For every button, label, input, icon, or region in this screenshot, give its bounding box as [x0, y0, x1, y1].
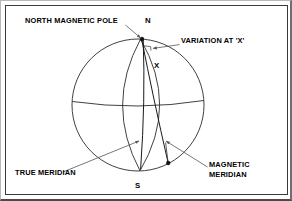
globe-outline [72, 39, 204, 171]
leader-north-magnetic-pole [126, 25, 141, 38]
label-north-pole-point: N [145, 16, 151, 25]
label-true-meridian: TRUE MERIDIAN [15, 168, 76, 177]
figure-frame: NORTH MAGNETIC POLE N VARIATION AT 'X' X… [0, 0, 292, 201]
label-magnetic-meridian-line1: MAGNETIC [209, 160, 250, 169]
true-meridian-curve [141, 39, 144, 170]
magnetic-meridian-curve [142, 39, 169, 163]
leader-magnetic-meridian [166, 141, 207, 167]
label-magnetic-meridian-line2: MERIDIAN [209, 170, 247, 179]
label-north-magnetic-pole: NORTH MAGNETIC POLE [25, 16, 118, 25]
label-station-x: X [154, 61, 160, 70]
north-magnetic-pole-dot [140, 37, 144, 41]
globe-meridian-right [140, 39, 160, 171]
variation-angle-mark [144, 46, 150, 47]
label-variation: VARIATION AT 'X' [181, 36, 245, 45]
magnetic-variation-diagram: NORTH MAGNETIC POLE N VARIATION AT 'X' X… [1, 1, 292, 201]
globe-meridian-left [123, 39, 141, 171]
equator-line [72, 101, 204, 107]
label-south-pole-point: S [135, 181, 140, 190]
